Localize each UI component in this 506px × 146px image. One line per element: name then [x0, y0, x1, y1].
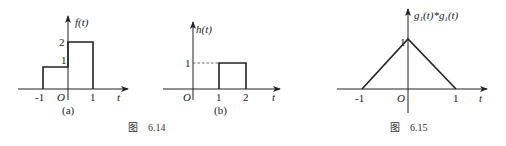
y-label-convolution: g1(t)*g1(t): [414, 9, 459, 23]
caption-figure-6-15: 图 6.15: [390, 122, 428, 133]
triangle-signal: [362, 39, 456, 89]
y-label-f: f(t): [75, 16, 89, 29]
x-tick-2-b: 2: [243, 91, 249, 103]
x-tick-neg1-615: -1: [355, 92, 364, 104]
figure-6-14-panel-b: h(t) 1 O 1 2 t (b): [163, 22, 280, 117]
y-tick-1-615: 1: [400, 36, 406, 48]
x-tick-1-615: 1: [453, 92, 459, 104]
y-tick-1: 1: [61, 54, 67, 66]
origin-label-a: O: [57, 91, 65, 103]
figure-6-14-panel-a: f(t) 2 1 -1 O 1 t (a): [18, 16, 128, 117]
caption-figure-6-14: 图 6.14: [128, 122, 166, 133]
sublabel-b: (b): [214, 104, 227, 117]
sublabel-a: (a): [62, 104, 75, 117]
y-tick-2: 2: [59, 36, 65, 48]
origin-label-b: O: [183, 91, 191, 103]
y-label-h: h(t): [196, 23, 212, 36]
signal-h: [219, 63, 246, 89]
x-label-t-a: t: [117, 91, 121, 103]
x-label-t-615: t: [479, 92, 483, 104]
y-tick-1-b: 1: [185, 57, 191, 69]
x-tick-1-b: 1: [216, 91, 222, 103]
origin-label-615: O: [397, 92, 405, 104]
x-tick-1: 1: [90, 91, 96, 103]
figure-6-15: g1(t)*g1(t) 1 -1 O 1 t: [337, 9, 487, 113]
x-label-t-b: t: [272, 91, 276, 103]
x-tick-neg1: -1: [35, 91, 44, 103]
diagram-canvas: f(t) 2 1 -1 O 1 t (a) h(t) 1 O 1 2 t (b)…: [0, 0, 506, 146]
